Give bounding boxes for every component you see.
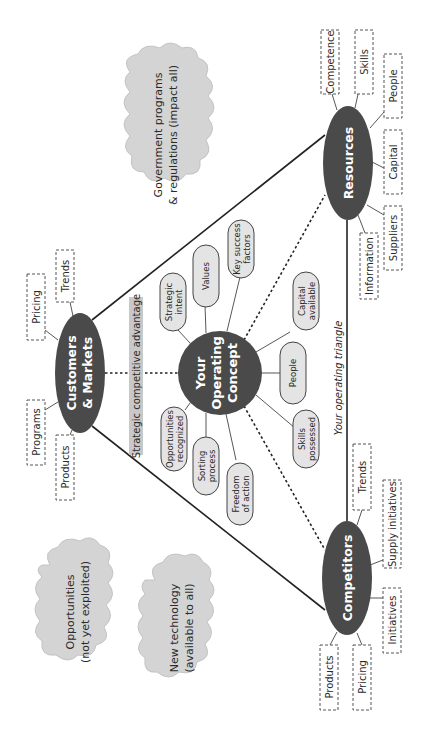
hub-customers-markets: Customers & Markets Trends Pricing Progr… <box>27 250 105 500</box>
hub-competitors: Competitors Trends Supply initiatives In… <box>320 444 401 710</box>
cloud-government: Government programs & regulations (impac… <box>124 43 214 205</box>
diagram-text: Suppliers <box>388 215 399 261</box>
cloud-opportunities-line1: Opportunities <box>64 574 77 649</box>
competitors-item-initiatives: Initiatives <box>383 588 401 653</box>
customers-item-products: Products <box>56 435 74 500</box>
diagram-text: Competence <box>325 30 336 93</box>
diagram-text: recognized <box>175 416 185 463</box>
diagram-text: Information <box>364 237 375 295</box>
diagram-text: Competitors <box>340 535 355 622</box>
resources-item-people: People <box>384 54 402 118</box>
diagram-text: Strategic <box>164 282 174 321</box>
diagram-text: Concept <box>225 343 240 403</box>
pill-key-success-factors: Key success factors <box>228 220 254 278</box>
diagram-text: of action <box>241 475 251 512</box>
diagram-text: intent <box>174 289 184 315</box>
competitors-item-supply-initiatives: Supply initiatives <box>383 480 401 568</box>
customers-item-programs: Programs <box>27 400 45 465</box>
cloud-new-technology: New technology (available to all) <box>138 554 214 677</box>
diagram-text: Key success <box>232 223 242 275</box>
competitors-item-products: Products <box>320 645 338 710</box>
customers-item-trends: Trends <box>56 250 74 302</box>
diagram-text: Products <box>60 445 71 488</box>
diagram-text: Pricing <box>31 290 42 324</box>
customers-item-pricing: Pricing <box>27 274 45 340</box>
diagram-text: Operating <box>209 336 224 410</box>
diagram-text: Capital <box>388 144 399 179</box>
cloud-government-line1: Government programs <box>152 72 165 197</box>
core-operating-concept: Your Operating Concept <box>178 331 262 415</box>
cloud-new-technology-line2: (available to all) <box>183 583 196 672</box>
diagram-text: People <box>388 69 399 102</box>
hub-resources: Resources Competence Skills People Capit… <box>321 30 402 299</box>
resources-item-capital: Capital <box>384 130 402 194</box>
diagram-text: Sorting <box>197 451 207 482</box>
cloud-opportunities-line2: (not yet exploited) <box>79 561 92 663</box>
diagram-text: Freedom <box>231 476 241 513</box>
diagram-text: Initiatives <box>387 596 398 645</box>
diagram-text: Pricing <box>357 660 368 694</box>
competitors-item-pricing: Pricing <box>353 645 371 710</box>
cloud-opportunities: Opportunities (not yet exploited) <box>35 538 113 663</box>
operating-triangle-diagram: Government programs & regulations (impac… <box>0 0 434 744</box>
diagram-text: Resources <box>341 127 356 200</box>
pill-skills-possessed: Skills possessed <box>293 410 319 468</box>
pill-sorting-process: Sorting process <box>193 437 219 495</box>
competitors-item-trends: Trends <box>353 444 371 510</box>
diagram-text: Customers <box>64 335 79 410</box>
diagram-text: Supply initiatives <box>387 481 398 567</box>
pill-capital-available: Capital available <box>293 272 319 330</box>
cloud-new-technology-line1: New technology <box>168 583 181 672</box>
diagram-text: factors <box>242 234 252 264</box>
diagram-text: People <box>288 359 298 387</box>
resources-item-suppliers: Suppliers <box>384 206 402 270</box>
operating-triangle-label: Your operating triangle <box>333 321 344 436</box>
diagram-text: Capital <box>297 286 307 316</box>
diagram-text: Trends <box>60 260 71 294</box>
resources-item-skills: Skills <box>355 30 373 94</box>
pill-strategic-intent: Strategic intent <box>160 273 186 331</box>
diagram-text: & Markets <box>80 337 95 409</box>
diagram-text: Products <box>324 655 335 698</box>
diagram-text: Skills <box>359 49 370 75</box>
pill-values: Values <box>193 245 219 307</box>
pill-opportunities-recognized: Opportunities recognized <box>161 407 187 471</box>
diagram-text: Programs <box>31 408 42 455</box>
diagram-text: available <box>307 282 317 320</box>
pill-people: People <box>280 342 306 404</box>
strategic-advantage-band: Strategic competitive advantage <box>129 294 143 458</box>
diagram-text: possessed <box>307 417 317 461</box>
diagram-text: Your <box>193 356 208 390</box>
diagram-text: Skills <box>297 428 307 450</box>
pill-freedom-of-action: Freedom of action <box>227 463 253 525</box>
diagram-text: process <box>207 449 217 482</box>
diagram-text: Values <box>201 262 211 290</box>
diagram-text: Opportunities <box>165 409 175 468</box>
resources-item-information: Information <box>360 233 378 299</box>
diagram-text: Trends <box>357 461 368 495</box>
strategic-advantage-label: Strategic competitive advantage <box>131 294 142 458</box>
resources-item-competence: Competence <box>321 30 339 94</box>
cloud-government-line2: & regulations (impact all) <box>167 65 180 205</box>
